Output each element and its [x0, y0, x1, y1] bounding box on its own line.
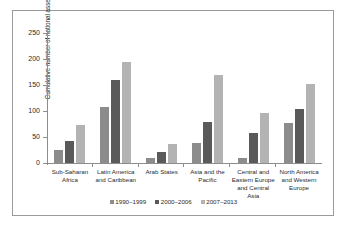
y-tick-0: 0: [43, 163, 47, 164]
chart-figure: Cumulative number of national assessment…: [0, 0, 347, 231]
legend-swatch-icon: [201, 200, 205, 204]
bar[interactable]: [157, 152, 166, 163]
y-tick-label-100: 100: [28, 106, 40, 115]
y-tick-label-50: 50: [32, 132, 40, 141]
bar[interactable]: [295, 109, 304, 163]
bar[interactable]: [203, 122, 212, 163]
legend-swatch-icon: [155, 200, 159, 204]
bar-group: [276, 33, 322, 163]
bar-group: [93, 33, 139, 163]
bar[interactable]: [100, 107, 109, 163]
bar[interactable]: [168, 144, 177, 163]
legend-item[interactable]: 2007–2013: [201, 198, 237, 206]
y-tick-label-250: 250: [28, 28, 40, 37]
chart-legend: 1990–19992000–20062007–2013: [0, 198, 347, 206]
bar[interactable]: [306, 84, 315, 163]
x-axis-category-label: Latin Americaand Caribbean: [93, 168, 139, 200]
y-tick-label-200: 200: [28, 54, 40, 63]
bar[interactable]: [65, 141, 74, 163]
legend-label: 2007–2013: [206, 198, 237, 206]
bar-groups: [47, 33, 322, 163]
bar-group: [184, 33, 230, 163]
x-axis-category-label: North Americaand WesternEurope: [276, 168, 322, 200]
bar[interactable]: [111, 80, 120, 163]
bar[interactable]: [249, 133, 258, 163]
legend-swatch-icon: [110, 200, 114, 204]
bar[interactable]: [192, 143, 201, 163]
bar[interactable]: [54, 150, 63, 163]
x-axis-category-labels: Sub-SaharanAfricaLatin Americaand Caribb…: [47, 168, 322, 200]
bar[interactable]: [146, 158, 155, 163]
bar[interactable]: [76, 125, 85, 163]
bar[interactable]: [260, 113, 269, 163]
y-tick-label-0: 0: [36, 158, 40, 167]
bar[interactable]: [284, 123, 293, 163]
bar-group: [139, 33, 185, 163]
bar[interactable]: [214, 75, 223, 163]
bar[interactable]: [122, 62, 131, 163]
legend-item[interactable]: 1990–1999: [110, 198, 146, 206]
bar-group: [230, 33, 276, 163]
x-axis-line: [47, 163, 322, 164]
legend-item[interactable]: 2000–2006: [155, 198, 191, 206]
y-tick-label-150: 150: [28, 80, 40, 89]
x-axis-category-label: Arab States: [139, 168, 185, 200]
x-axis-category-label: Asia and thePacific: [184, 168, 230, 200]
legend-label: 1990–1999: [115, 198, 146, 206]
bar-group: [47, 33, 93, 163]
x-axis-category-label: Central andEastern Europeand Central Asi…: [230, 168, 276, 200]
x-axis-category-label: Sub-SaharanAfrica: [47, 168, 93, 200]
legend-label: 2000–2006: [161, 198, 192, 206]
bar[interactable]: [238, 158, 247, 163]
